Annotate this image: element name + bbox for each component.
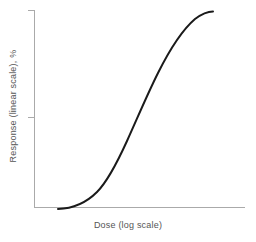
y-axis-label: Response (linear scale), % — [8, 50, 18, 163]
chart-canvas — [0, 0, 256, 242]
y-axis-label-container: Response (linear scale), % — [0, 0, 26, 212]
dose-response-curve — [58, 12, 213, 210]
dose-response-chart: Response (linear scale), % Dose (log sca… — [0, 0, 256, 242]
x-axis-label: Dose (log scale) — [0, 220, 256, 230]
